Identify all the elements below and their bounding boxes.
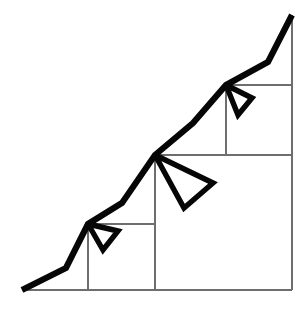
diagram-canvas — [0, 0, 307, 310]
fan-wedge-upper — [226, 85, 252, 115]
fan-wedge-small — [88, 224, 118, 250]
fan-wedge-medium — [155, 155, 213, 208]
staircase-polyline — [22, 15, 292, 290]
figure-root — [0, 0, 307, 310]
staircase-layer — [22, 15, 292, 290]
fan-layer — [88, 85, 252, 250]
